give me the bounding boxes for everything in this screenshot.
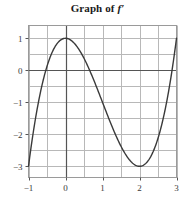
y-tick-label: −2 [13,130,23,140]
x-tick-label: −1 [24,183,34,193]
x-axis-tick-labels: −10123 [24,183,180,193]
chart-figure: Graph of f′ −10123 10−1−2−3 [0,0,195,209]
y-tick-label: −3 [13,162,23,172]
y-tick-label: 0 [18,66,23,76]
x-tick-label: 0 [63,183,68,193]
grid-lines [29,26,178,178]
x-tick-label: 2 [137,183,142,193]
x-tick-label: 3 [174,183,179,193]
y-tick-label: 1 [18,34,23,44]
plot-area: −10123 10−1−2−3 [0,0,195,209]
x-tick-label: 1 [100,183,105,193]
y-tick-label: −1 [13,98,23,108]
y-axis-tick-labels: 10−1−2−3 [13,34,23,172]
